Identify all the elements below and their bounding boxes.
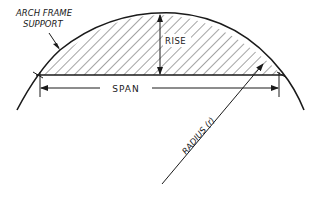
span-label: SPAN	[112, 84, 139, 94]
arch-frame-label-line2: SUPPORT	[23, 19, 63, 29]
radius-label: RADIUS (r)	[180, 115, 217, 156]
arch-frame-label-line1: ARCH FRAME	[15, 8, 73, 18]
arch-frame-leader-arrowhead	[53, 43, 60, 50]
arch-diagram: SPAN RISE RADIUS (r) ARCH FRAME SUPPORT	[0, 0, 311, 199]
rise-label: RISE	[165, 36, 186, 46]
